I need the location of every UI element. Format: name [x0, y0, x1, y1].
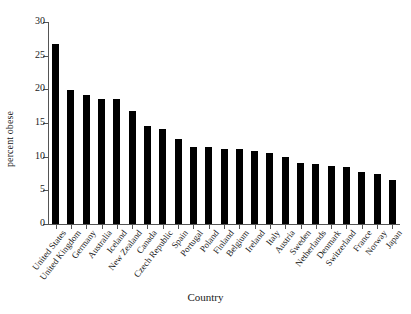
y-axis-title: percent obese — [4, 84, 15, 194]
y-tick-label: 20 — [35, 82, 45, 94]
x-axis-title: Country — [0, 291, 411, 304]
bar — [52, 44, 59, 224]
y-tick-label: 30 — [35, 15, 45, 27]
y-tick-label: 5 — [40, 183, 45, 195]
bar — [67, 90, 74, 224]
y-tick-label: 0 — [40, 217, 45, 229]
y-axis-line — [48, 22, 49, 224]
bar — [282, 157, 289, 224]
bar-chart-figure: percent obese 051015202530 United States… — [0, 0, 411, 314]
y-tick-label: 15 — [35, 116, 45, 128]
y-tick-label: 25 — [35, 49, 45, 61]
y-tick-label: 10 — [35, 150, 45, 162]
x-axis-category-labels: United StatesUnited KingdomGermanyAustra… — [48, 228, 400, 288]
